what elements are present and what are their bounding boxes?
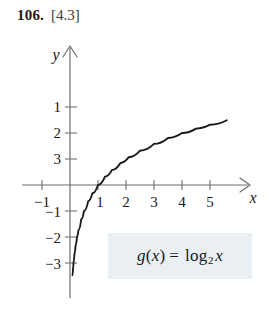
section-reference: [4.3] xyxy=(51,7,80,23)
equation-callout-box: g(x)=log2x xyxy=(108,233,252,279)
y-tick-label: 3 xyxy=(54,151,62,167)
exercise-header: 106.[4.3] xyxy=(17,6,80,24)
problem-number: 106. xyxy=(17,7,44,23)
x-tick-label: 3 xyxy=(150,194,158,210)
y-tick-label: −2 xyxy=(45,230,61,246)
equation-log-word: log xyxy=(185,246,207,265)
y-tick-label: −3 xyxy=(45,256,61,272)
x-tick-label: 1 xyxy=(96,194,104,210)
equation-function-name: g xyxy=(137,246,146,265)
equation-paren-close: ) xyxy=(159,246,165,265)
equation-equals-sign: = xyxy=(169,246,179,265)
equation-text: g(x)=log2x xyxy=(137,246,223,266)
x-tick-label: 4 xyxy=(178,194,186,210)
y-tick-label: 1 xyxy=(54,99,62,115)
y-axis-label: y xyxy=(50,46,60,64)
x-tick-label: 2 xyxy=(122,194,130,210)
x-axis-label: x xyxy=(248,189,256,206)
equation-log-base: 2 xyxy=(208,254,214,266)
exercise-figure-page: 106.[4.3] xyxy=(0,0,279,310)
y-tick-label: 2 xyxy=(54,125,62,141)
y-tick-label: −1 xyxy=(45,204,61,220)
equation-log-argument: x xyxy=(215,246,223,265)
x-tick-label: 5 xyxy=(206,194,214,210)
